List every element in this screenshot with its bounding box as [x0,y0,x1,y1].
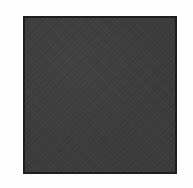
dark-square [23,16,177,174]
canvas [0,0,193,188]
